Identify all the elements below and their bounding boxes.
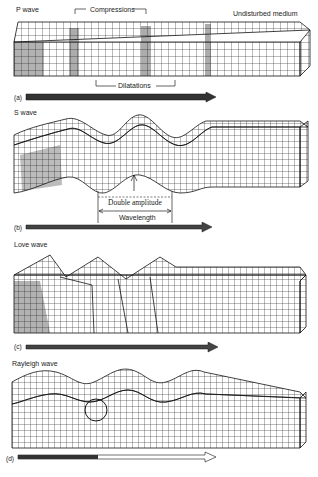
p-wave-block (0, 0, 318, 100)
panel-p-wave: P wave Compressions Undisturbed medium D… (0, 0, 318, 100)
panel-s-wave: S wave Double amplitude Wavelength (b) (0, 105, 318, 230)
wavelength-label: Wavelength (119, 214, 156, 222)
panel-love-wave: Love wave (c) (0, 237, 318, 357)
propagation-arrow-b (0, 222, 318, 234)
propagation-arrow-a (0, 92, 318, 104)
propagation-arrow-d (0, 451, 318, 465)
double-amplitude-label: Double amplitude (108, 199, 162, 207)
dilatations-label: Dilatations (118, 82, 151, 90)
love-wave-block (0, 237, 318, 357)
s-wave-block (0, 105, 318, 230)
rayleigh-wave-block (0, 358, 318, 458)
propagation-arrow-c (0, 342, 318, 354)
panel-rayleigh-wave: Rayleigh wave (0, 358, 318, 458)
